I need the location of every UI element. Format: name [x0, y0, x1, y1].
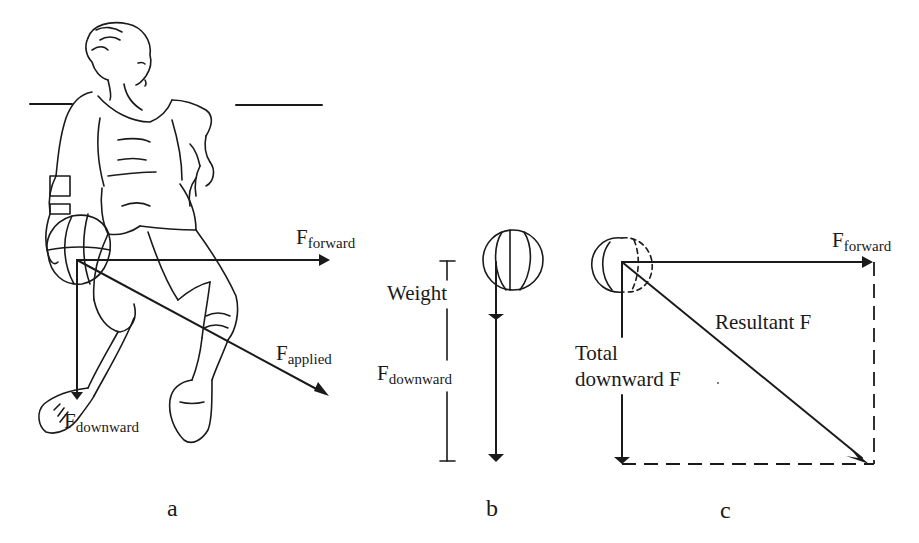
panel-a: Fforward Fapplied Fdownward a	[30, 23, 356, 521]
label-total-line2: downward F	[575, 367, 681, 391]
label-resultant-f: Resultant F	[715, 310, 811, 334]
f-applied-arrow-a	[77, 260, 329, 396]
panel-b: Weight Fdownward b	[377, 230, 543, 521]
panel-label-b: b	[486, 495, 498, 521]
label-f-applied-a: Fapplied	[276, 341, 332, 367]
downward-force-arrow-b	[488, 262, 504, 462]
basketball-player-figure	[39, 23, 238, 443]
arrowhead-icon	[846, 448, 869, 464]
label-f-forward-c: Fforward	[832, 228, 892, 254]
basketball-b	[483, 230, 543, 290]
arrowhead-icon	[71, 392, 83, 400]
weight-tick-icon	[488, 314, 504, 320]
label-weight-b: Weight	[387, 281, 447, 305]
resultant-arrow-c	[622, 262, 869, 464]
label-f-forward-a: Fforward	[296, 225, 356, 251]
arrowhead-icon	[488, 454, 504, 462]
arrowhead-icon	[614, 457, 630, 464]
panel-c: Fforward Resultant F Total downward F c	[575, 228, 892, 523]
label-total-line1: Total	[575, 341, 618, 365]
arrowhead-icon	[314, 382, 329, 396]
f-forward-arrow-a	[77, 254, 330, 266]
f-forward-arrow-c	[622, 256, 873, 268]
arrowhead-icon	[862, 256, 873, 268]
stray-dot	[717, 382, 719, 384]
panel-label-a: a	[167, 495, 178, 521]
label-f-downward-a: Fdownward	[64, 409, 140, 435]
force-diagram: Fforward Fapplied Fdownward a	[0, 0, 919, 543]
label-f-downward-b: Fdownward	[377, 361, 453, 387]
arrowhead-icon	[319, 254, 330, 266]
panel-label-c: c	[720, 497, 731, 523]
